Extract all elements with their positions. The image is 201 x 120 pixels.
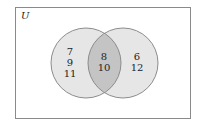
left-only-value: 7 — [67, 46, 73, 57]
intersection-value: 10 — [98, 62, 111, 73]
right-only-value: 6 — [134, 51, 140, 62]
right-only-value: 12 — [131, 62, 144, 73]
intersection-value: 8 — [101, 51, 107, 62]
universe-label: U — [21, 10, 30, 21]
venn-diagram: U 7 9 11 8 10 6 12 — [0, 0, 201, 120]
left-only-value: 11 — [64, 68, 77, 79]
left-only-value: 9 — [67, 57, 73, 68]
